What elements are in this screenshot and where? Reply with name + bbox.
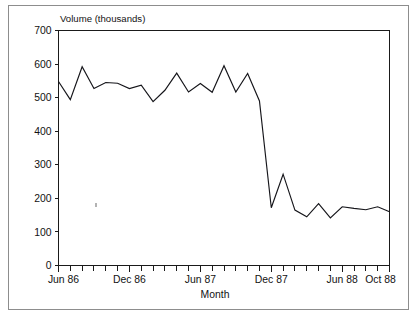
y-tick-labels: 0100200300400500600700 — [34, 25, 52, 271]
y-tick-marks — [55, 31, 59, 266]
x-tick-label: Jun 87 — [185, 274, 216, 285]
x-tick-label: Dec 87 — [255, 274, 288, 285]
figure-container: 0100200300400500600700 Jun 86Dec 86Jun 8… — [0, 0, 418, 320]
x-tick-marks — [59, 266, 390, 272]
y-tick-label: 0 — [46, 260, 52, 271]
y-tick-label: 200 — [34, 193, 52, 204]
y-tick-label: 700 — [34, 25, 52, 36]
x-tick-label: Oct 88 — [365, 274, 396, 285]
y-tick-label: 500 — [34, 92, 52, 103]
x-axis-title: Month — [201, 289, 230, 300]
y-tick-label: 300 — [34, 159, 52, 170]
x-tick-label: Jun 86 — [48, 274, 79, 285]
x-tick-label: Jun 88 — [327, 274, 358, 285]
y-tick-label: 400 — [34, 126, 52, 137]
chart-canvas: 0100200300400500600700 Jun 86Dec 86Jun 8… — [0, 0, 418, 320]
y-tick-label: 600 — [34, 59, 52, 70]
y-axis-title: Volume (thousands) — [60, 13, 145, 24]
data-series-volume — [59, 66, 390, 218]
x-tick-labels: Jun 86Dec 86Jun 87Dec 87Jun 88Oct 88 — [48, 274, 396, 285]
y-tick-label: 100 — [34, 227, 52, 238]
x-tick-label: Dec 86 — [113, 274, 146, 285]
scan-artifact-speck — [95, 203, 97, 207]
